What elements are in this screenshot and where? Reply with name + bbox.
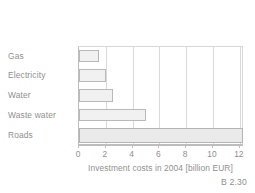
x-tick-label-8: 8 <box>183 149 188 159</box>
x-tick-label-6: 6 <box>156 149 161 159</box>
category-label-water: Water <box>8 91 70 100</box>
bar-roads <box>79 128 243 144</box>
category-label-waste-water: Waste water <box>8 111 70 120</box>
chart-figure: Gas Electricity Water Waste water Roads <box>0 0 255 193</box>
bar-water <box>79 89 113 102</box>
category-label-electricity: Electricity <box>8 71 70 80</box>
category-axis-labels: Gas Electricity Water Waste water Roads <box>0 46 74 145</box>
plot-area <box>78 46 243 145</box>
x-tick-10 <box>212 145 213 148</box>
category-label-roads: Roads <box>8 131 70 140</box>
x-tick-2 <box>105 145 106 148</box>
x-tick-8 <box>185 145 186 148</box>
category-label-gas: Gas <box>8 52 70 61</box>
bar-electricity <box>79 69 106 82</box>
x-tick-label-10: 10 <box>207 149 216 159</box>
x-axis-line <box>78 145 243 146</box>
figure-caption: B 2.30 <box>221 177 247 188</box>
x-tick-label-12: 12 <box>234 149 243 159</box>
bar-gas <box>79 50 99 63</box>
x-axis-tick-labels: 0 2 4 6 8 10 12 <box>78 149 243 161</box>
x-tick-6 <box>158 145 159 148</box>
x-tick-0 <box>78 145 79 148</box>
x-tick-4 <box>132 145 133 148</box>
x-axis-title: Investment costs in 2004 [billion EUR] <box>78 163 243 174</box>
x-tick-label-2: 2 <box>102 149 107 159</box>
bar-waste-water <box>79 109 146 122</box>
x-tick-label-4: 4 <box>129 149 134 159</box>
x-tick-12 <box>239 145 240 148</box>
x-tick-label-0: 0 <box>76 149 81 159</box>
